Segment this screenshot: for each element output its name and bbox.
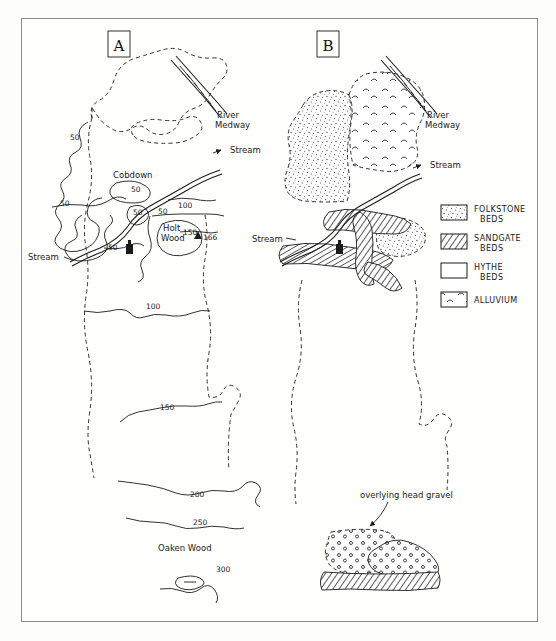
panel-a-river-label-line1: River	[217, 110, 240, 120]
panel-b-stream-label-left: Stream	[252, 234, 283, 244]
legend-sandgate-line1: SANDGATE	[474, 234, 521, 243]
panel-a-letter: A	[113, 37, 125, 55]
sandgate-beds-swatch	[441, 234, 467, 249]
panel-a-holt-wood-line2: Wood	[161, 233, 185, 243]
panel-a-building-symbol	[126, 240, 133, 254]
panel-a-contour-label-150-b: 150	[160, 403, 175, 412]
legend: FOLKSTONE BEDS SANDGATE BEDS HYTHE BEDS …	[441, 205, 526, 307]
panel-a-contour-50-lobe	[65, 215, 113, 261]
panel-a-spot-height-value: 166	[203, 233, 218, 242]
panel-a-contour-label-100-a: 100	[178, 201, 193, 210]
panel-b-folkstone-west	[285, 91, 351, 203]
panel-a-place-cobdown: Cobdown	[113, 170, 152, 180]
panel-a-contour-300-main	[160, 586, 218, 604]
panel-a-stream-arrow	[213, 150, 221, 153]
panel-a-stream-label-left: Stream	[28, 252, 59, 262]
legend-sandgate-line2: BEDS	[480, 244, 503, 253]
panel-b-west-boundary	[291, 280, 302, 504]
figure-sheet: A River Medway Stream	[0, 0, 556, 641]
panel-b-stream-arrow	[413, 165, 421, 168]
panel-a-contour-label-200: 200	[190, 490, 205, 499]
panel-a-river-medway	[171, 56, 227, 118]
panel-b-building-symbol	[336, 240, 343, 254]
panel-a-inner-boundary	[131, 117, 202, 144]
panel-a-contour-label-cobdown-50: 50	[131, 185, 141, 194]
panel-b-east-boundary	[413, 280, 451, 490]
legend-hythe-line2: BEDS	[480, 273, 503, 282]
panel-a-contour-label-300: 300	[216, 565, 231, 574]
panel-b-river-label-line1: River	[427, 110, 450, 120]
panel-a-contour-label-50-a: 50	[70, 133, 80, 142]
panel-a-east-boundary	[203, 215, 240, 470]
panel-a-contour-label-100-b: 100	[146, 302, 161, 311]
panel-a-contour-label-50-b: 50	[60, 199, 70, 208]
panel-a-contour-300-loop	[175, 576, 204, 590]
panel-a-contour-label-50-e: 50	[158, 207, 168, 216]
panel-b-stream-leader	[286, 238, 296, 240]
panel-b: B River Medway	[252, 31, 461, 591]
legend-hythe-line1: HYTHE	[474, 263, 503, 272]
hythe-beds-swatch	[441, 263, 467, 278]
panel-b-sandgate-foot	[364, 262, 402, 291]
panel-b-river-label-line2: Medway	[425, 120, 460, 130]
legend-alluvium-line1: ALLUVIUM	[474, 296, 518, 305]
panel-b-head-gravel-leader	[370, 502, 388, 526]
legend-folkstone-line2: BEDS	[480, 215, 503, 224]
panel-a-contour-label-50-c: 50	[108, 243, 118, 252]
panel-a-holt-wood-line1: Holt	[163, 223, 181, 233]
panel-a-label-box: A	[108, 31, 130, 57]
panel-b-base-hatch-band	[320, 572, 440, 591]
panel-a-place-oaken-wood: Oaken Wood	[158, 543, 212, 553]
panel-a-stream-label-right: Stream	[230, 145, 261, 155]
panel-a-contour-100-curve	[138, 216, 151, 282]
panel-b-head-gravel-annotation: overlying head gravel	[360, 490, 453, 500]
alluvium-swatch	[441, 292, 467, 307]
panel-a-stream-line	[70, 170, 222, 266]
panel-a-area-boundary	[91, 48, 227, 134]
panel-a-contour-250-main	[126, 518, 244, 529]
panel-a-river-label-line2: Medway	[215, 120, 250, 130]
panel-a: A River Medway Stream	[28, 31, 261, 603]
panel-b-stream-label-right: Stream	[430, 160, 461, 170]
panel-b-letter: B	[322, 37, 333, 55]
panel-a-contour-label-50-d: 50	[133, 208, 143, 217]
legend-folkstone-line1: FOLKSTONE	[474, 205, 526, 214]
figure-canvas: A River Medway Stream	[0, 0, 556, 641]
panel-a-west-boundary	[84, 118, 94, 478]
panel-a-contour-label-250: 250	[193, 518, 208, 527]
panel-b-label-box: B	[317, 31, 339, 57]
folkstone-beds-swatch	[441, 205, 467, 220]
panel-a-contour-label-150-a: 150	[183, 228, 198, 237]
